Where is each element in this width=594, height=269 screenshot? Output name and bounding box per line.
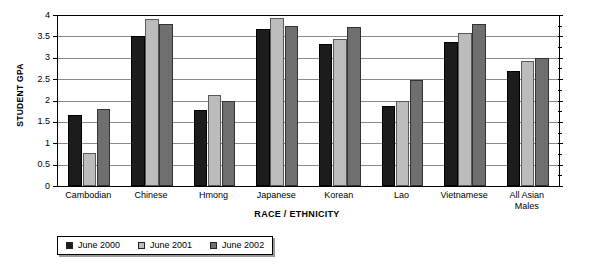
bar bbox=[507, 71, 521, 186]
y-axis-tick-mark bbox=[53, 186, 57, 187]
legend-color-swatch bbox=[210, 242, 217, 249]
legend-color-swatch bbox=[138, 242, 145, 249]
y-axis-tick-mark bbox=[53, 58, 57, 59]
bar-group bbox=[183, 15, 246, 186]
bar bbox=[68, 115, 82, 186]
bar bbox=[208, 95, 222, 186]
y-axis-tick-mark-right bbox=[558, 143, 563, 144]
bar-group bbox=[309, 15, 372, 186]
y-axis-tick-mark bbox=[53, 143, 57, 144]
bar bbox=[521, 61, 535, 186]
bar bbox=[285, 26, 299, 186]
y-axis-tick-label: 3 bbox=[22, 53, 50, 62]
y-axis-tick-mark bbox=[53, 79, 57, 80]
bar bbox=[319, 44, 333, 186]
chart-container: STUDENT GPA 00.511.522.533.54 CambodianC… bbox=[0, 0, 594, 269]
y-axis-minor-tick-right bbox=[558, 90, 562, 91]
y-axis-tick-mark-right bbox=[558, 15, 563, 16]
x-axis-title: RACE / ETHNICITY bbox=[0, 209, 594, 219]
bar bbox=[270, 18, 284, 186]
y-axis-minor-tick-right bbox=[558, 133, 562, 134]
y-axis-tick-mark-right bbox=[558, 186, 563, 187]
bar-group bbox=[121, 15, 184, 186]
bar bbox=[396, 101, 410, 186]
y-axis-tick-mark bbox=[53, 165, 57, 166]
legend-item: June 2000 bbox=[66, 241, 120, 250]
bar-group bbox=[58, 15, 121, 186]
y-axis-minor-tick-right bbox=[558, 111, 562, 112]
bar bbox=[131, 36, 145, 186]
bar-groups bbox=[58, 15, 559, 186]
bar bbox=[535, 58, 549, 186]
bar bbox=[444, 42, 458, 186]
y-axis-tick-label: 1.5 bbox=[22, 117, 50, 126]
bar bbox=[410, 80, 424, 186]
y-axis-minor-tick-right bbox=[558, 26, 562, 27]
legend-color-swatch bbox=[66, 242, 73, 249]
y-axis-tick-mark-right bbox=[558, 101, 563, 102]
y-axis-tick-mark-right bbox=[558, 122, 563, 123]
bar bbox=[382, 106, 396, 186]
y-axis-tick-mark-right bbox=[558, 165, 563, 166]
y-axis-tick-label: 3.5 bbox=[22, 32, 50, 41]
bar bbox=[97, 109, 111, 186]
legend-item-label: June 2000 bbox=[78, 241, 120, 250]
legend-item: June 2002 bbox=[210, 241, 264, 250]
legend-item: June 2001 bbox=[138, 241, 192, 250]
bar bbox=[145, 19, 159, 186]
y-axis-minor-tick-right bbox=[558, 68, 562, 69]
legend-item-label: June 2002 bbox=[222, 241, 264, 250]
bar bbox=[347, 27, 361, 186]
y-axis-tick-mark bbox=[53, 36, 57, 37]
y-axis-tick-mark bbox=[53, 122, 57, 123]
y-axis-tick-label: 1 bbox=[22, 139, 50, 148]
bar-group bbox=[246, 15, 309, 186]
y-axis-minor-tick-right bbox=[558, 175, 562, 176]
bar-group bbox=[496, 15, 559, 186]
bar bbox=[194, 110, 208, 186]
chart-legend: June 2000June 2001June 2002 bbox=[57, 236, 273, 255]
y-axis-minor-tick-right bbox=[558, 47, 562, 48]
plot-area bbox=[57, 15, 560, 187]
y-axis-tick-label: 2.5 bbox=[22, 75, 50, 84]
bar bbox=[159, 24, 173, 186]
bar-group bbox=[434, 15, 497, 186]
y-axis-tick-label: 0 bbox=[22, 182, 50, 191]
y-axis-tick-mark-right bbox=[558, 58, 563, 59]
x-axis-category-label-line: All Asian bbox=[489, 190, 564, 201]
bar-group bbox=[371, 15, 434, 186]
y-axis-tick-label: 0.5 bbox=[22, 160, 50, 169]
bar bbox=[472, 24, 486, 186]
y-axis-minor-tick-right bbox=[558, 154, 562, 155]
y-axis-tick-mark-right bbox=[558, 79, 563, 80]
y-axis-tick-mark bbox=[53, 101, 57, 102]
bar bbox=[256, 29, 270, 186]
y-axis-tick-label: 2 bbox=[22, 96, 50, 105]
bar bbox=[83, 153, 97, 186]
bar bbox=[458, 33, 472, 186]
bar bbox=[333, 39, 347, 186]
bar bbox=[222, 101, 236, 186]
legend-item-label: June 2001 bbox=[150, 241, 192, 250]
x-axis-category-label: All AsianMales bbox=[489, 190, 564, 211]
y-axis-tick-mark-right bbox=[558, 36, 563, 37]
y-axis-tick-mark bbox=[53, 15, 57, 16]
y-axis-tick-label: 4 bbox=[22, 11, 50, 20]
